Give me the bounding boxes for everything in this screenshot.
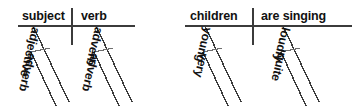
right-verb-label: are singing: [261, 10, 326, 23]
right-subject-label: children: [190, 10, 237, 23]
example-diagram: children are singing young very loudly q…: [0, 0, 357, 111]
diagram-canvas: subject verb adjective adverb adverb adv…: [0, 0, 357, 111]
right-adverb-label-1: very: [192, 52, 210, 78]
